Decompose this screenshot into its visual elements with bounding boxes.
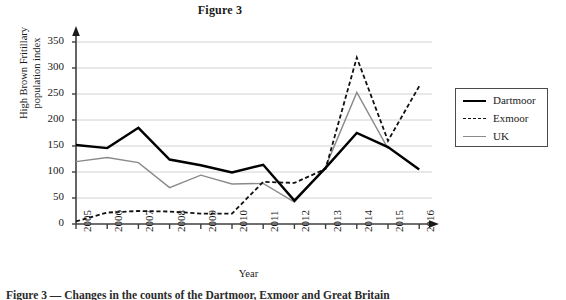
x-tick-label: 2007 [143, 210, 155, 232]
series-line-uk [76, 92, 388, 202]
y-tick-label: 200 [28, 112, 64, 124]
plot-area [0, 0, 566, 300]
x-tick-label: 2010 [237, 210, 249, 232]
series-line-dartmoor [76, 128, 419, 201]
figure-container: Figure 3 High Brown Fritillary populatio… [0, 0, 566, 300]
legend-label-uk: UK [493, 130, 509, 142]
x-tick-label: 2012 [299, 210, 311, 232]
x-tick-label: 2015 [393, 210, 405, 232]
legend-item-uk[interactable]: UK [463, 128, 509, 144]
y-tick-label: 50 [28, 190, 64, 202]
gridlines-group [76, 42, 432, 198]
y-axis-arrowhead [72, 26, 80, 36]
series-line-exmoor [76, 58, 419, 222]
y-tick-label: 350 [28, 34, 64, 46]
legend-item-dartmoor[interactable]: Dartmoor [463, 92, 536, 108]
x-tick-label: 2013 [331, 210, 343, 232]
x-tick-label: 2014 [362, 210, 374, 232]
legend-label-dartmoor: Dartmoor [493, 94, 536, 106]
legend-label-exmoor: Exmoor [493, 112, 528, 124]
y-tick-label: 300 [28, 60, 64, 72]
solid-line-icon [463, 95, 486, 105]
figure-caption: Figure 3 — Changes in the counts of the … [6, 289, 426, 300]
y-tick-label: 150 [28, 138, 64, 150]
x-tick-label: 2008 [175, 210, 187, 232]
x-tick-label: 2016 [424, 210, 436, 232]
y-tick-label: 250 [28, 86, 64, 98]
legend: Dartmoor Exmoor UK [455, 88, 548, 147]
x-tick-label: 2011 [268, 210, 280, 232]
data-series-group [76, 58, 419, 222]
legend-item-exmoor[interactable]: Exmoor [463, 110, 528, 126]
x-tick-label: 2005 [81, 210, 93, 232]
y-tick-label: 0 [28, 216, 64, 228]
x-tick-label: 2009 [206, 210, 218, 232]
dashed-line-icon [463, 113, 486, 123]
x-tick-label: 2006 [112, 210, 124, 232]
thin-line-icon [463, 131, 486, 141]
y-tick-label: 100 [28, 164, 64, 176]
